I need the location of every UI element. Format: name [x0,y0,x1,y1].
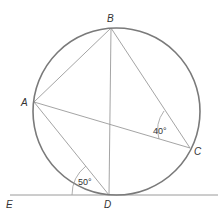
geometry-diagram: B A C D E 40° 50° [0,0,218,219]
angle-label-D: 50° [78,177,92,187]
chord-BC [111,28,190,148]
label-C: C [194,146,202,157]
angle-label-C: 40° [153,126,167,136]
label-B: B [107,13,114,24]
circle [33,28,200,195]
label-E: E [6,199,13,210]
chord-BD [109,28,111,195]
chord-AB [34,28,111,102]
chord-AC [34,102,190,148]
label-D: D [104,199,111,210]
diagram-canvas: B A C D E 40° 50° [0,0,218,219]
label-A: A [20,97,28,108]
